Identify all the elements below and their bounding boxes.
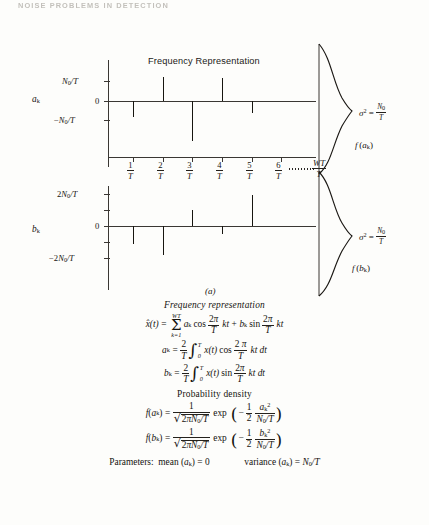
summation-symbol: WT Σ k=1 [169,313,184,338]
bk-tick-top [104,194,110,195]
equation-xhat: x̂(t)= WT Σ k=1 ak cos 2πT kt + bk sin 2… [0,313,429,338]
bk-bar-3 [192,210,193,226]
gaussian-bk-sigma-label: σ2 = N0T [359,227,386,245]
sqrt-bk: √ 2πN0/T [174,439,210,450]
bk-ylabel-bot: −2N0/T [49,253,74,263]
integral-symbol-ak: ∫ T0 [187,342,202,359]
bk-tick-upper-mid [104,210,110,211]
parameters-prefix: Parameters: [109,457,153,467]
bk-ylabel-top: 2N0/T [57,189,77,199]
sqrt-ak: √ 2πN0/T [174,414,210,425]
equation-ak: ak= 2T ∫ T0 x(t) cos 2 πT kt dt [0,340,429,361]
bk-tick-zero [104,226,108,227]
bk-bar-1 [133,226,134,244]
bk-zero-baseline [108,226,316,227]
bk-vertical-axis [108,186,109,290]
integral-symbol-bk: ∫ T0 [189,365,204,382]
bk-tick-lower-mid [104,242,110,243]
gaussian-bk-density-label: f (bk) [352,263,370,273]
equation-f-bk: f(bk) = 1 √ 2πN0/T exp ( − 12 bk2 N0/T ) [0,428,429,451]
figure-caption-a: (a) [205,286,216,296]
figure-page: NOISE PROBLEMS IN DETECTION Frequency Re… [0,0,429,525]
equation-bk: bk= 2T ∫ T0 x(t) sin 2πT kt dt [0,364,429,385]
bk-bar-2 [163,226,164,255]
bk-ylabel-zero: 0 [95,221,99,231]
equation-f-ak: f(ak) = 1 √ 2πN0/T exp ( − 12 ak2 N0/T ) [0,402,429,425]
bk-bar-4 [222,226,223,234]
equations-section2-title: Probability density [0,389,429,399]
bk-bar-5 [252,195,253,226]
equations-block: Frequency representation x̂(t)= WT Σ k=1… [0,300,429,467]
parameters-line: Parameters: mean (ak) = 0 variance (ak) … [0,457,429,467]
equations-section1-title: Frequency representation [0,300,429,310]
bk-axis-name: bk [32,224,40,234]
bk-tick-bot [104,258,110,259]
